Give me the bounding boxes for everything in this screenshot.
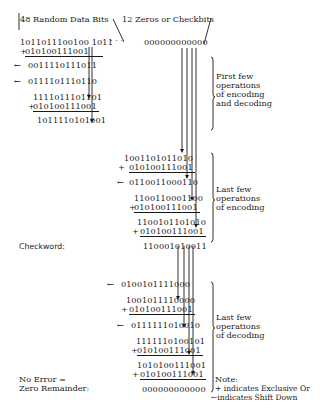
annotation-line: of encoding [216, 203, 265, 212]
poly-row: 010100111001 [129, 163, 195, 173]
legend-shift: ←indicates Shift Down [211, 393, 297, 402]
checkword-label: Checkword: [19, 242, 65, 251]
remainder-value: 000000000000 [142, 385, 206, 394]
shift-symbol: ← [107, 280, 114, 289]
poly-row: 010100111001 [33, 102, 99, 112]
shift-symbol: ← [14, 61, 21, 70]
xor-symbol: + [121, 305, 128, 314]
shift-symbol: ← [117, 321, 124, 330]
xor-symbol: + [118, 163, 125, 172]
check-bits-label: 12 Zeros or Checkbits [122, 15, 214, 24]
shift-row: 0100101111000 [121, 280, 190, 289]
result-row: 1011110101001 [37, 116, 106, 125]
data-bits-label: 48 Random Data Bits [20, 15, 108, 24]
initial-checkbits: 000000000000 [144, 38, 208, 47]
poly-row: 010100111001 [140, 227, 206, 237]
poly-row: 010100111001 [25, 47, 103, 57]
shift-row: 0011110111011 [28, 61, 97, 70]
legend-xor: + indicates Exclusive Or [215, 384, 310, 393]
annotation-line: and decoding [216, 99, 272, 108]
zero-remainder-label: Zero Remainder: [19, 384, 89, 393]
xor-symbol: + [132, 370, 139, 379]
shift-row: 0111111010010 [131, 321, 200, 330]
shift-symbol: ← [117, 178, 124, 187]
shift-row: 0111101110110 [28, 77, 97, 86]
shift-symbol: ← [14, 77, 21, 86]
xor-symbol: + [132, 227, 139, 236]
legend-title: Note: [215, 375, 238, 384]
poly-row: 010100111001 [137, 346, 203, 356]
checkword-value: 110001010011 [143, 242, 207, 251]
poly-row: 010100111001 [140, 370, 206, 380]
poly-row: 010100111001 [129, 305, 195, 315]
annotation-line: of decoding [216, 331, 265, 340]
poly-row: 010100111001 [134, 203, 200, 213]
shift-row: 0110011000110 [129, 178, 198, 187]
